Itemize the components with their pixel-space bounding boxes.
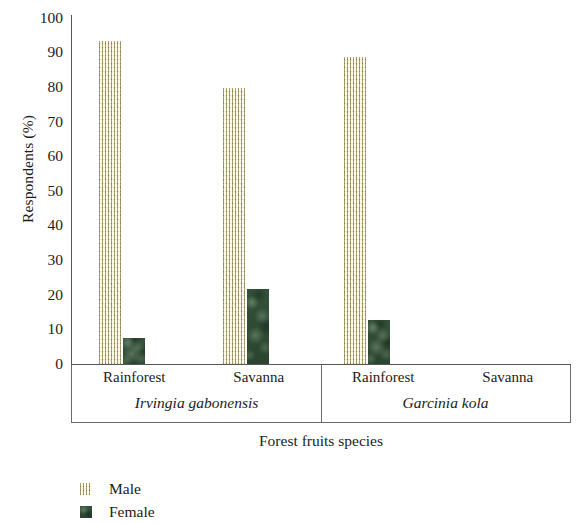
y-tick-label: 100 [29,10,63,26]
bar-male [344,57,366,364]
bar-male [99,41,121,364]
legend-swatch-female-icon [80,506,92,518]
region-label-row: Rainforest Savanna [72,369,321,386]
region-label-row: Rainforest Savanna [321,369,570,386]
y-tick-label: 0 [29,356,63,372]
region-label: Savanna [197,369,322,386]
bar-female [123,338,145,364]
region-label: Rainforest [321,369,446,386]
legend-swatch-male-icon [80,483,92,495]
chart-legend: Male Female [80,477,155,523]
legend-item-female: Female [80,500,155,523]
y-tick-label: 70 [29,114,63,130]
species-label: Garcinia kola [321,394,570,412]
bar-male [223,88,245,364]
region-label: Savanna [446,369,571,386]
bar-chart: Respondents (%) 100 90 80 70 60 50 40 30… [0,0,582,523]
y-tick-label: 80 [29,79,63,95]
legend-label: Female [109,503,155,521]
y-tick-label: 50 [29,183,63,199]
plot-area [71,15,571,364]
bar-female [247,289,269,364]
bar-female [368,320,390,364]
legend-item-male: Male [80,477,155,500]
legend-label: Male [109,480,141,498]
group-garcinia-kola: Rainforest Savanna Garcinia kola [321,365,570,422]
y-tick-label: 30 [29,252,63,268]
species-label: Irvingia gabonensis [72,394,321,412]
group-irvingia-gabonensis: Rainforest Savanna Irvingia gabonensis [72,365,321,422]
x-axis-title: Forest fruits species [71,432,571,450]
y-axis-tick-labels: 100 90 80 70 60 50 40 30 20 10 0 [29,0,63,523]
x-axis-category-box: Rainforest Savanna Irvingia gabonensis R… [71,365,571,423]
y-tick-label: 40 [29,217,63,233]
y-tick-label: 60 [29,148,63,164]
region-label: Rainforest [72,369,197,386]
y-tick-label: 20 [29,287,63,303]
y-tick-label: 10 [29,321,63,337]
y-tick-label: 90 [29,44,63,60]
